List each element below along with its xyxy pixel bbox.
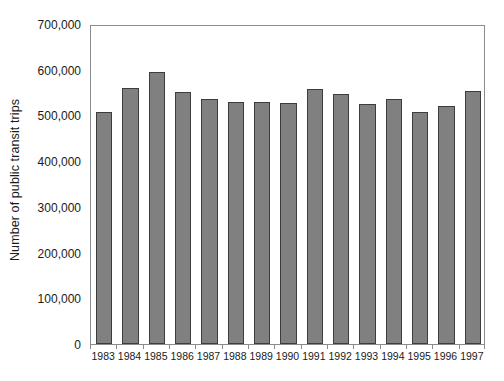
x-axis-tick-label: 1993 [355, 350, 378, 362]
y-axis-tick-label: 700,000 [38, 18, 81, 32]
y-axis-tick-label: 100,000 [38, 292, 81, 306]
y-axis-tick-label: 0 [74, 338, 81, 352]
x-axis-tick-mark [222, 345, 223, 349]
y-axis-tick-label: 300,000 [38, 201, 81, 215]
x-axis-tick-label: 1986 [170, 350, 193, 362]
x-axis-tick-label: 1983 [91, 350, 114, 362]
bar [412, 112, 428, 344]
bar [438, 106, 454, 344]
bar [254, 102, 270, 344]
bar [149, 72, 165, 344]
x-axis-tick-label: 1987 [197, 350, 220, 362]
x-axis-tick-mark [432, 345, 433, 349]
bar [228, 102, 244, 344]
x-axis-tick-label: 1996 [434, 350, 457, 362]
x-axis-tick-mark [353, 345, 354, 349]
x-axis-tick-label: 1994 [381, 350, 404, 362]
x-axis-tick-label: 1985 [144, 350, 167, 362]
x-axis-tick-label: 1990 [276, 350, 299, 362]
bar [386, 99, 402, 344]
bars-layer [91, 26, 484, 344]
x-axis-tick-label: 1997 [460, 350, 483, 362]
x-axis-tick-mark [195, 345, 196, 349]
x-axis-tick-label: 1984 [118, 350, 141, 362]
y-axis-tick-labels: 0100,000200,000300,000400,000500,000600,… [22, 0, 86, 381]
bar [175, 92, 191, 344]
bar [359, 104, 375, 344]
y-axis-tick-label: 400,000 [38, 155, 81, 169]
x-axis-tick-mark [301, 345, 302, 349]
x-axis-tick-label: 1991 [302, 350, 325, 362]
x-axis-tick-label: 1988 [223, 350, 246, 362]
bar [122, 88, 138, 344]
bar [96, 112, 112, 344]
bar [333, 94, 349, 344]
x-axis-tick-mark [116, 345, 117, 349]
bar [280, 103, 296, 344]
y-axis-tick-label: 500,000 [38, 109, 81, 123]
x-axis-tick-labels: 1983198419851986198719881989199019911992… [90, 350, 485, 370]
x-axis-tick-mark [274, 345, 275, 349]
x-axis-tick-mark [406, 345, 407, 349]
x-axis-tick-mark [459, 345, 460, 349]
plot-area [90, 25, 485, 345]
y-axis-title-label: Number of public transit trips [8, 99, 22, 261]
x-axis-tick-mark [169, 345, 170, 349]
x-axis-tick-mark [327, 345, 328, 349]
y-axis-tick-label: 200,000 [38, 247, 81, 261]
x-axis-tick-mark [484, 345, 485, 349]
bar [465, 91, 481, 344]
x-axis-tick-mark [248, 345, 249, 349]
bar-chart-figure: Number of public transit trips 0100,0002… [0, 0, 504, 381]
x-axis-tick-label: 1992 [328, 350, 351, 362]
bar [201, 99, 217, 344]
x-axis-tick-label: 1989 [249, 350, 272, 362]
bar [307, 89, 323, 344]
x-axis-tick-mark [90, 345, 91, 349]
x-axis-tick-mark [143, 345, 144, 349]
x-axis-tick-label: 1995 [407, 350, 430, 362]
y-axis-tick-label: 600,000 [38, 64, 81, 78]
x-axis-tick-mark [380, 345, 381, 349]
